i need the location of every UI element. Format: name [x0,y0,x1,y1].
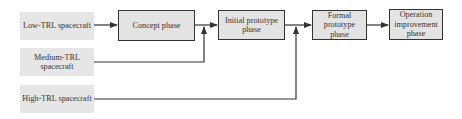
source-low-trl: Low-TRL spacecraft [20,12,94,40]
source-medium-trl: Medium-TRL spacecraft [20,48,94,76]
phase-initial-prototype-label: Initial prototype phase [223,16,280,35]
source-low-trl-label: Low-TRL spacecraft [23,21,91,31]
phase-concept-label: Concept phase [133,21,181,31]
phase-initial-prototype: Initial prototype phase [218,10,285,40]
phase-operation-improvement-label: Operation improvement phase [391,10,441,39]
source-medium-trl-label: Medium-TRL spacecraft [32,53,82,72]
phase-concept: Concept phase [118,10,195,41]
source-high-trl-label: High-TRL spacecraft [22,94,92,104]
source-high-trl: High-TRL spacecraft [20,85,94,113]
phase-formal-prototype: Formal prototype phase [312,10,367,40]
phase-operation-improvement: Operation improvement phase [389,9,443,40]
phase-formal-prototype-label: Formal prototype phase [319,11,360,40]
